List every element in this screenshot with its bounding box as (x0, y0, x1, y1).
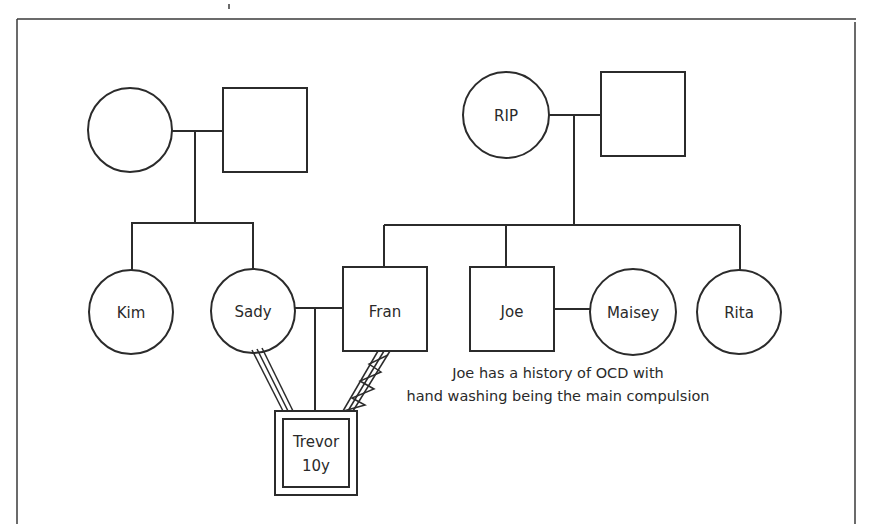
maisey-label: Maisey (607, 304, 659, 322)
relationship-conflicted-fran-trevor (340, 351, 390, 412)
sady-node[interactable]: Sady (211, 269, 295, 353)
grandmother-left-node[interactable] (88, 88, 172, 172)
relationship-close-sady-trevor (252, 348, 293, 411)
trevor-label: Trevor (292, 433, 340, 451)
rita-node[interactable]: Rita (697, 270, 781, 354)
joe-label: Joe (500, 303, 524, 321)
annotation-joe-ocd: Joe has a history of OCD with hand washi… (406, 365, 709, 404)
kim-label: Kim (117, 304, 146, 322)
diagram-frame (17, 4, 856, 524)
genogram-diagram: RIP Kim Sady Fran Joe Maisey Rita (0, 0, 872, 524)
sady-label: Sady (234, 303, 271, 321)
grandfather-right-node[interactable] (601, 72, 685, 156)
kim-node[interactable]: Kim (89, 270, 173, 354)
maisey-node[interactable]: Maisey (590, 269, 676, 355)
annotation-line-1: Joe has a history of OCD with (451, 365, 664, 381)
grandmother-right-label: RIP (494, 107, 518, 125)
right-grandparents: RIP (384, 72, 740, 270)
rita-label: Rita (724, 304, 754, 322)
joe-node[interactable]: Joe (470, 267, 554, 351)
grandfather-left-node[interactable] (223, 88, 307, 172)
fran-label: Fran (369, 303, 401, 321)
trevor-node[interactable]: Trevor 10y (275, 411, 357, 495)
fran-node[interactable]: Fran (343, 267, 427, 351)
left-grandparents (88, 88, 307, 270)
trevor-age: 10y (302, 457, 330, 475)
annotation-line-2: hand washing being the main compulsion (406, 388, 709, 404)
